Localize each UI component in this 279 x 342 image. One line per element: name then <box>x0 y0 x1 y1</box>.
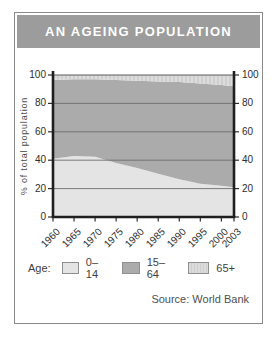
y-tick-label-right: 20 <box>242 183 253 195</box>
y-tick-label-left: 20 <box>35 183 46 195</box>
x-tick-label: 1995 <box>186 226 210 250</box>
y-axis-title: % of total population <box>19 97 29 195</box>
y-tick-label-right: 40 <box>242 154 253 166</box>
y-tick-label-right: 60 <box>242 126 253 138</box>
y-tick-label-right: 100 <box>242 69 259 81</box>
x-tick-label: 1975 <box>101 226 125 250</box>
x-tick-label: 1960 <box>38 226 62 250</box>
legend-title: Age: <box>28 262 51 274</box>
source-note: Source: World Bank <box>151 293 249 305</box>
legend-item: 15–64 <box>122 256 171 280</box>
y-tick-label-left: 60 <box>35 126 46 138</box>
legend-swatch-0-14 <box>62 262 79 274</box>
y-tick-label-right: 0 <box>242 211 248 223</box>
chart-card: AN AGEING POPULATION % of total populati… <box>14 12 263 324</box>
title-banner: AN AGEING POPULATION <box>17 15 260 48</box>
y-tick-label-right: 80 <box>242 97 253 109</box>
chart-title: AN AGEING POPULATION <box>45 24 232 39</box>
x-tick-label: 1980 <box>122 226 146 250</box>
x-tick-label: 1965 <box>59 226 83 250</box>
legend-item-label: 0–14 <box>86 256 106 280</box>
y-tick-label-left: 40 <box>35 154 46 166</box>
legend-item: 65+ <box>188 262 235 274</box>
legend: Age: 0–1415–6465+ <box>28 259 252 277</box>
y-tick-label-left: 100 <box>29 69 46 81</box>
legend-swatch-65+ <box>188 262 209 274</box>
legend-items: 0–1415–6465+ <box>62 256 252 280</box>
y-tick-label-left: 0 <box>40 211 46 223</box>
legend-item-label: 65+ <box>216 262 235 274</box>
legend-swatch-15-64 <box>122 262 139 274</box>
legend-item-label: 15–64 <box>147 256 172 280</box>
x-tick-label: 1985 <box>144 226 168 250</box>
stacked-area-chart <box>53 75 234 217</box>
legend-item: 0–14 <box>62 256 106 280</box>
x-tick-label: 1990 <box>165 226 189 250</box>
y-tick-label-left: 80 <box>35 97 46 109</box>
x-tick-label: 1970 <box>80 226 104 250</box>
